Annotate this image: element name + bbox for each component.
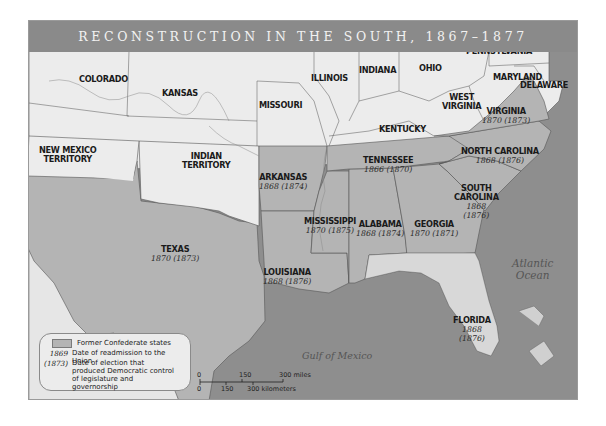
label-alabama: ALABAMA 1868 (1874) [356,220,404,238]
label-north-carolina: NORTH CAROLINA 1868 (1876) [461,147,539,165]
map-legend: Former Confederate states 1869 Date of r… [39,333,191,391]
label-indian-territory: INDIAN TERRITORY [182,152,230,170]
confederate-swatch [52,339,72,348]
label-kentucky: KENTUCKY [379,125,426,134]
label-florida: FLORIDA 1868 (1876) [453,316,491,343]
label-kansas: KANSAS [162,89,198,98]
label-tennessee: TENNESSEE 1866 (1870) [363,156,413,174]
label-delaware: DELAWARE [520,81,568,90]
map-title-bar: RECONSTRUCTION IN THE SOUTH, 1867–1877 [29,21,577,52]
label-west-virginia: WEST VIRGINIA [442,93,481,111]
label-ohio: OHIO [419,64,442,73]
scale-bar: 0 150 300 miles 0 150 300 kilometers [199,371,319,400]
label-illinois: ILLINOIS [311,74,348,83]
label-louisiana: LOUISIANA 1868 (1876) [263,268,311,286]
label-mississippi: MISSISSIPPI 1870 (1875) [304,217,356,235]
label-atlantic-ocean: AtlanticOcean [512,257,553,281]
label-texas: TEXAS 1870 (1873) [151,245,199,263]
map-frame: RECONSTRUCTION IN THE SOUTH, 1867–1877 [28,20,578,400]
label-colorado: COLORADO [79,75,128,84]
label-arkansas: ARKANSAS 1868 (1874) [259,173,307,191]
label-virginia: VIRGINIA 1870 (1873) [482,107,530,125]
label-gulf-of-mexico: Gulf of Mexico [302,350,372,361]
label-south-carolina: SOUTH CAROLINA 1868 (1876) [454,184,499,220]
label-new-mexico: NEW MEXICO TERRITORY [39,146,96,164]
map-title: RECONSTRUCTION IN THE SOUTH, 1867–1877 [78,29,528,44]
label-missouri: MISSOURI [259,101,302,110]
label-indiana: INDIANA [359,66,396,75]
legend-item-democratic-control: (1873) Date of election that produced De… [40,359,178,391]
legend-item-confederate: Former Confederate states [46,339,183,348]
label-georgia: GEORGIA 1870 (1871) [410,220,458,238]
